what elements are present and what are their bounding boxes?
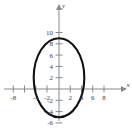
x-tick-label-2: 2: [69, 94, 73, 102]
x-axis-label: x: [125, 81, 130, 89]
x-tick-label-8: 8: [102, 94, 106, 102]
y-tick-label-10: 10: [46, 29, 54, 37]
y-tick-label-minus2: -2: [47, 97, 53, 105]
x-tick-label-minus4: -4: [33, 94, 39, 102]
y-tick-label-8: 8: [50, 40, 54, 48]
y-tick-label-4: 4: [50, 63, 54, 71]
y-tick-label-6: 6: [50, 52, 54, 60]
x-tick-label-4: 4: [80, 94, 84, 102]
y-axis-label: y: [61, 2, 66, 10]
coordinate-plot: -8 -4 -2 2 4 6 8 10 8 6 4 2 -2 -4 -6 x y: [0, 0, 132, 129]
y-tick-label-minus6: -6: [47, 119, 53, 127]
y-tick-label-2: 2: [50, 74, 54, 82]
x-tick-label-6: 6: [91, 94, 95, 102]
y-tick-label-minus4: -4: [47, 108, 53, 116]
x-tick-label-minus8: -8: [10, 94, 16, 102]
ellipse-graph-figure: -8 -4 -2 2 4 6 8 10 8 6 4 2 -2 -4 -6 x y: [0, 0, 132, 129]
